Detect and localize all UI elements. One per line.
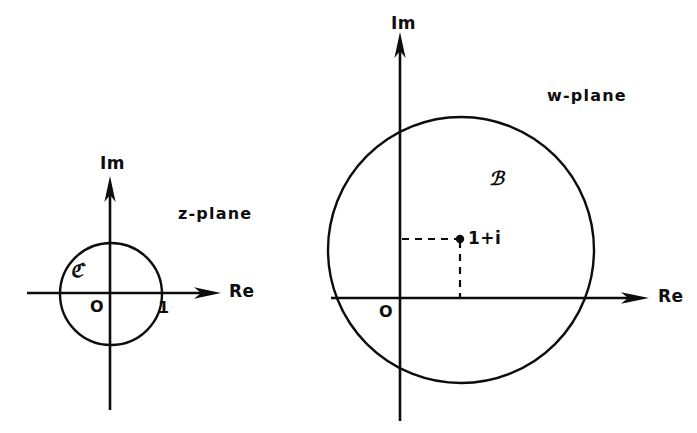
w-plane-title-label: w-plane [547, 88, 627, 104]
z-plane-real-axis-label: Re [229, 283, 255, 300]
z-plane-origin-label: O [90, 299, 104, 315]
w-plane-image-circle [328, 117, 594, 383]
w-plane-point-marker [456, 235, 464, 243]
complex-plane-figure: Im Re z-plane O 1 ℭ Im Re w-plane O 1+i … [0, 0, 697, 433]
z-plane-tick-label-one: 1 [158, 300, 169, 316]
w-plane-real-axis-label: Re [658, 288, 684, 305]
w-plane-point-label: 1+i [468, 230, 501, 247]
z-plane-title-label: z-plane [178, 206, 252, 222]
w-plane-origin-label: O [379, 304, 393, 320]
w-plane-region-set-label: ℬ [489, 169, 504, 188]
z-plane-imaginary-axis-label: Im [100, 155, 125, 172]
z-plane-curve-set-label: ℭ [70, 261, 83, 280]
w-plane-imaginary-axis-label: Im [391, 15, 416, 32]
figure-canvas [0, 0, 697, 433]
